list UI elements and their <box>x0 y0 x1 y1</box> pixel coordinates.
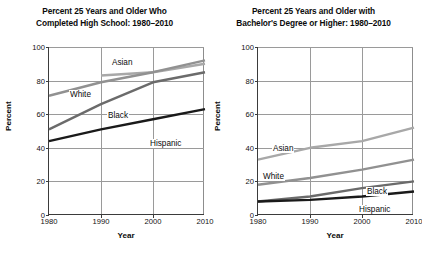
chart-title-high-school: Percent 25 Years and Older Who Completed… <box>6 6 203 29</box>
y-axis-tick-mark <box>46 215 50 216</box>
y-axis-tick-label: 60 <box>37 110 45 119</box>
series-label-asian: Asian <box>111 58 133 67</box>
y-axis-tick-label: 60 <box>246 110 254 119</box>
series-lines <box>49 47 205 215</box>
y-axis-tick-label: 20 <box>37 177 45 186</box>
y-axis-tick-label: 40 <box>37 143 45 152</box>
y-axis-tick-label: 100 <box>32 43 45 52</box>
x-axis-label: Year <box>257 231 413 240</box>
series-label-black: Black <box>107 111 129 120</box>
plot-area-bachelors: 0204060801001980199020002010AsianWhiteBl… <box>257 47 413 215</box>
x-axis-tick-label: 2000 <box>354 217 371 226</box>
chart-panel-high-school: Percent 25 Years and Older Who Completed… <box>0 0 209 271</box>
x-axis-tick-label: 1980 <box>250 217 267 226</box>
series-label-asian: Asian <box>272 144 294 153</box>
y-axis-tick-label: 100 <box>241 43 254 52</box>
plot-area-high-school: 0204060801001980199020002010AsianWhiteBl… <box>48 47 204 215</box>
y-axis-tick-mark <box>255 215 259 216</box>
x-axis-tick-label: 1990 <box>93 217 110 226</box>
y-axis-tick-label: 80 <box>246 76 254 85</box>
x-axis-tick-label: 1980 <box>41 217 58 226</box>
chart-title-line2: Completed High School: 1980–2010 <box>6 18 203 30</box>
series-lines <box>258 47 414 215</box>
y-axis-tick-label: 80 <box>37 76 45 85</box>
x-axis-label: Year <box>48 231 204 240</box>
series-label-white: White <box>262 172 285 181</box>
chart-title-bachelors: Percent 25 Years and Older with Bachelor… <box>215 6 412 29</box>
x-axis-tick-label: 1990 <box>302 217 319 226</box>
chart-title-line1: Percent 25 Years and Older Who <box>42 6 167 16</box>
series-label-white: White <box>69 90 92 99</box>
y-axis-tick-label: 40 <box>246 143 254 152</box>
x-axis-tick-label: 2010 <box>406 217 422 226</box>
chart-title-line1: Percent 25 Years and Older with <box>252 6 375 16</box>
y-axis-label: Percent <box>213 101 222 131</box>
y-axis-label: Percent <box>4 101 13 131</box>
y-axis-tick-label: 20 <box>246 177 254 186</box>
series-label-hispanic: Hispanic <box>149 139 182 148</box>
series-line-black <box>49 72 205 129</box>
x-axis-tick-label: 2000 <box>145 217 162 226</box>
series-label-hispanic: Hispanic <box>358 205 391 214</box>
chart-title-line2: Bachelor's Degree or Higher: 1980–2010 <box>215 18 412 30</box>
series-label-black: Black <box>366 187 388 196</box>
chart-panel-bachelors: Percent 25 Years and Older with Bachelor… <box>209 0 418 271</box>
